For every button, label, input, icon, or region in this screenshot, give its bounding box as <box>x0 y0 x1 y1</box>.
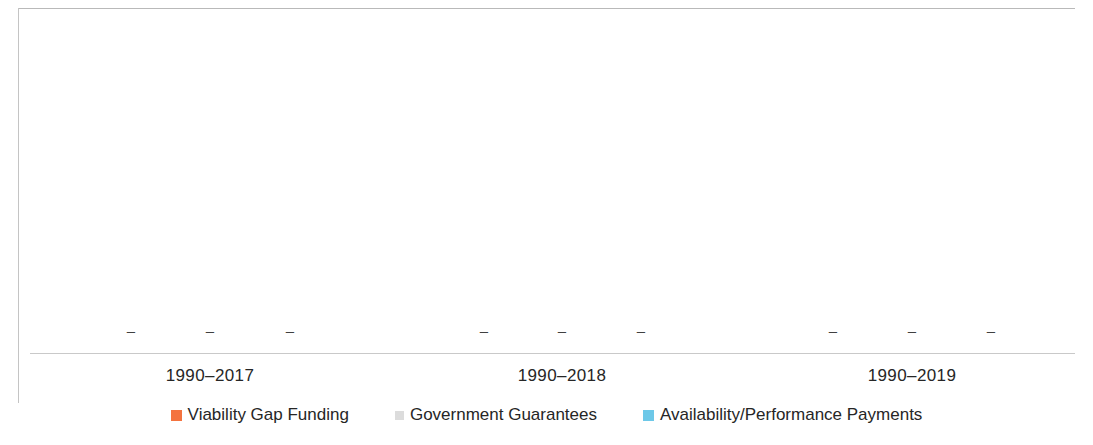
plot-area <box>30 10 1075 353</box>
data-label: – <box>903 322 921 340</box>
legend-swatch-icon <box>171 410 182 421</box>
chart-frame-top-border <box>18 8 1075 9</box>
chart-legend: Viability Gap FundingGovernment Guarante… <box>0 400 1093 430</box>
data-label: – <box>475 322 493 340</box>
category-axis-label: 1990–2017 <box>110 365 310 387</box>
legend-label: Availability/Performance Payments <box>660 404 922 426</box>
category-axis-line <box>30 353 1075 354</box>
legend-label: Viability Gap Funding <box>188 404 349 426</box>
data-label: – <box>824 322 842 340</box>
data-label: – <box>201 322 219 340</box>
legend-item[interactable]: Viability Gap Funding <box>171 404 349 426</box>
legend-label: Government Guarantees <box>410 404 597 426</box>
legend-swatch-icon <box>395 411 404 420</box>
category-axis-label: 1990–2019 <box>812 365 1012 387</box>
legend-swatch-icon <box>643 410 654 421</box>
category-axis-label-group: 1990–20171990–20181990–2019 <box>0 365 1093 391</box>
data-label: – <box>553 322 571 340</box>
chart-container: ––––––––– 1990–20171990–20181990–2019 Vi… <box>0 0 1093 445</box>
data-label: – <box>982 322 1000 340</box>
legend-item[interactable]: Government Guarantees <box>395 404 597 426</box>
data-label: – <box>122 322 140 340</box>
chart-frame-left-border <box>18 8 19 403</box>
data-label: – <box>281 322 299 340</box>
category-axis-label: 1990–2018 <box>462 365 662 387</box>
data-label-group: ––––––––– <box>0 322 1093 342</box>
legend-item[interactable]: Availability/Performance Payments <box>643 404 922 426</box>
data-label: – <box>632 322 650 340</box>
